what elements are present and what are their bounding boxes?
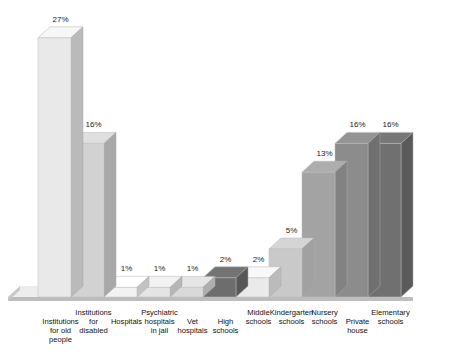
- bar-chart: 27%16%1%1%1%2%2%5%13%16%16% Institutions…: [0, 0, 467, 362]
- bar-value-label: 1%: [187, 265, 199, 273]
- bar-value-label: 16%: [349, 121, 365, 129]
- bar-value-label: 16%: [85, 121, 101, 129]
- bar-value-label: 16%: [382, 121, 398, 129]
- bar-value-label: 27%: [52, 16, 68, 24]
- bar-value-label: 1%: [121, 265, 133, 273]
- category-label: Elementary schools: [360, 308, 422, 326]
- bar-value-label: 13%: [316, 150, 332, 158]
- bar-value-label: 1%: [154, 265, 166, 273]
- bar-value-label: 5%: [286, 227, 298, 235]
- bar-value-label: 2%: [253, 256, 265, 264]
- bar-value-label: 2%: [220, 256, 232, 264]
